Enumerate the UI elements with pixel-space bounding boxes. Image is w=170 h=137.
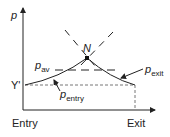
y-axis-label: p bbox=[11, 10, 17, 21]
y-reference-label: Y' bbox=[11, 80, 20, 91]
p-exit-arrow bbox=[121, 69, 143, 78]
peak-label: N bbox=[83, 43, 91, 54]
p-av-label: pav bbox=[35, 60, 50, 75]
x-axis-exit-label: Exit bbox=[127, 118, 145, 129]
x-axis-entry-label: Entry bbox=[12, 118, 38, 129]
p-exit-label: pexit bbox=[145, 64, 164, 79]
p-entry-label: pentry bbox=[60, 89, 84, 104]
peak-point bbox=[85, 56, 89, 60]
